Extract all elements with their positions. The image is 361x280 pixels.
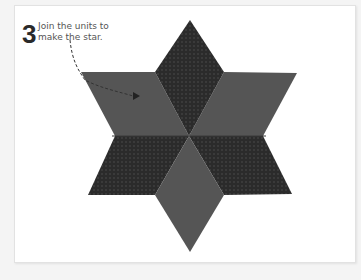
step-number: 3 — [22, 21, 36, 47]
step-caption: Join the units to make the star. — [38, 21, 128, 43]
